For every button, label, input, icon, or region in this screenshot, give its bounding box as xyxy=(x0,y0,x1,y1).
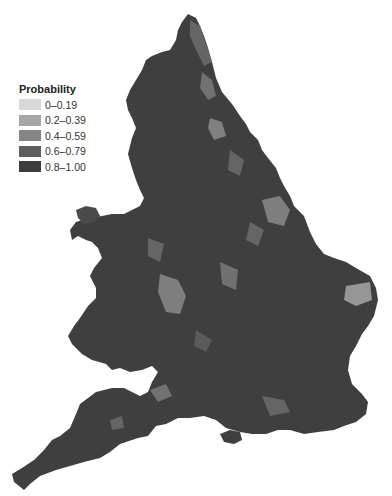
legend-item: 0.8–1.00 xyxy=(19,159,86,175)
legend-item: 0.4–0.59 xyxy=(19,128,86,144)
legend-label: 0.6–0.79 xyxy=(45,145,86,157)
england-wales-probability-map xyxy=(0,0,392,496)
legend-swatch xyxy=(19,115,41,126)
legend-item: 0.6–0.79 xyxy=(19,144,86,160)
legend-item: 0.2–0.39 xyxy=(19,113,86,129)
legend-swatch xyxy=(19,146,41,157)
legend-item: 0–0.19 xyxy=(19,97,86,113)
legend-label: 0.8–1.00 xyxy=(45,161,86,173)
legend-label: 0–0.19 xyxy=(45,99,77,111)
legend-title: Probability xyxy=(19,83,86,95)
legend-label: 0.4–0.59 xyxy=(45,130,86,142)
legend-swatch xyxy=(19,130,41,141)
legend: Probability 0–0.19 0.2–0.39 0.4–0.59 0.6… xyxy=(19,83,86,175)
legend-swatch xyxy=(19,99,41,110)
legend-swatch xyxy=(19,161,41,172)
legend-label: 0.2–0.39 xyxy=(45,114,86,126)
isle-of-wight xyxy=(220,430,242,444)
